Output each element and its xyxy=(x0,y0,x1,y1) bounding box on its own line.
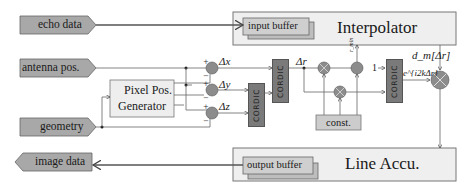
input-buffer-label: input buffer xyxy=(248,21,298,32)
rmin-label: r_min xyxy=(348,38,354,52)
dx-label: Δx xyxy=(219,56,230,67)
antenna-pos-label: antenna pos. xyxy=(22,62,79,74)
phase-label: e^{i2kΔr} xyxy=(403,69,438,78)
svg-text:−: − xyxy=(203,94,209,102)
interpolator-label: Interpolator xyxy=(337,19,417,36)
svg-text:+: + xyxy=(203,80,209,88)
output-buffer-label: output buffer xyxy=(247,160,302,171)
dr-label: Δr xyxy=(296,56,307,67)
geometry-label: geometry xyxy=(40,121,83,133)
pixel-pos-label-2: Generator xyxy=(118,100,166,112)
dm-label: d_m[Δr] xyxy=(412,50,450,61)
one-label: 1 xyxy=(372,63,377,73)
echo-data-label: echo data xyxy=(38,19,82,31)
cordic-block-1: CORDIC xyxy=(248,83,265,127)
svg-text:−: − xyxy=(203,117,209,125)
adder-rmin xyxy=(351,62,363,74)
pixel-pos-label-1: Pixel Pos. xyxy=(124,84,172,96)
image-data-label: image data xyxy=(35,156,85,168)
svg-text:+: + xyxy=(203,103,209,111)
svg-text:−: − xyxy=(203,72,209,80)
cordic-block-3: CORDIC xyxy=(386,59,403,103)
dz-label: Δz xyxy=(219,101,230,112)
const-label: const. xyxy=(326,118,351,129)
multiplier-1 xyxy=(318,62,330,74)
multiplier-2 xyxy=(334,86,346,98)
dy-label: Δy xyxy=(219,79,230,90)
cordic-block-2: CORDIC xyxy=(272,59,289,103)
line-accu-label: Line Accu. xyxy=(345,155,420,172)
svg-text:+: + xyxy=(203,58,209,66)
